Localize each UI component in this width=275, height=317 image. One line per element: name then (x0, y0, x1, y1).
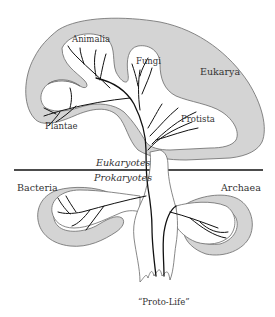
label-fungi: Fungi (136, 56, 161, 66)
label-eukaryotes: Eukaryotes (95, 157, 151, 168)
label-proto-life: “Proto-Life” (138, 297, 190, 307)
label-animalia: Animalia (71, 34, 110, 44)
label-plantae: Plantae (45, 121, 78, 131)
label-archaea: Archaea (220, 182, 261, 193)
label-eukarya: Eukarya (200, 66, 240, 77)
label-prokaryotes: Prokaryotes (93, 172, 152, 183)
label-protista: Protista (181, 114, 215, 124)
tree-of-life-diagram: Animalia Fungi Plantae Protista Eukarya … (0, 0, 275, 317)
label-bacteria: Bacteria (17, 182, 58, 193)
